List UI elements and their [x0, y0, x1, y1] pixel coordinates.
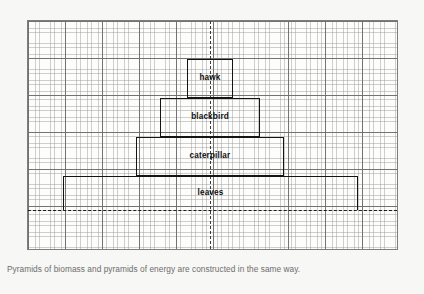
pyramid-tier-hawk: hawk: [187, 59, 233, 98]
horizontal-baseline-dashed: [28, 210, 397, 211]
pyramid-tier-label-blackbird: blackbird: [191, 113, 229, 121]
pyramid-tier-blackbird: blackbird: [160, 98, 260, 137]
pyramid-tier-label-caterpillar: caterpillar: [190, 152, 231, 160]
pyramid-tier-caterpillar: caterpillar: [136, 137, 284, 176]
figure-caption: Pyramids of biomass and pyramids of ener…: [7, 264, 417, 275]
pyramid-of-numbers-figure: hawk blackbird caterpillar leaves Pyrami…: [0, 0, 424, 294]
pyramid-tier-label-hawk: hawk: [199, 74, 220, 82]
graph-paper-plot-area: hawk blackbird caterpillar leaves: [27, 20, 398, 250]
pyramid-tier-leaves: leaves: [63, 176, 358, 210]
pyramid-tier-label-leaves: leaves: [198, 189, 224, 197]
